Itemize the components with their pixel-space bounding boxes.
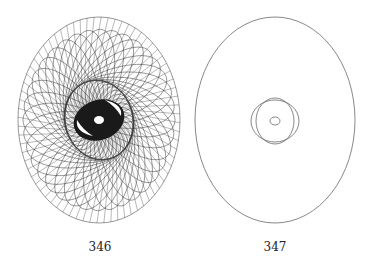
figure-caption-346: 346: [70, 240, 130, 254]
figure-caption-347: 347: [245, 240, 305, 254]
spirograph-drawing: [0, 0, 200, 235]
figure-346: [0, 0, 200, 235]
ellipse-drawing: [180, 0, 368, 235]
figure-347: [180, 0, 368, 235]
